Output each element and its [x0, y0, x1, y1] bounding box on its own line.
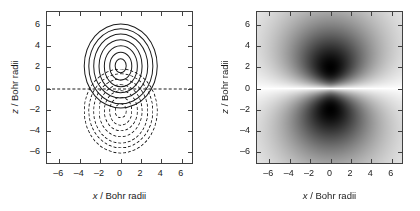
density-xticklabel: 0	[327, 169, 332, 178]
density-yticklabel: –6	[232, 147, 250, 156]
density-xaxis-title: x / Bohr radii	[256, 190, 403, 201]
density-plot-frame	[256, 11, 403, 164]
contour-ytick-right	[188, 152, 192, 153]
contour-xtick-top	[161, 12, 162, 16]
density-ytick-right	[398, 46, 402, 47]
contour-xticklabel: 6	[178, 169, 183, 178]
contour-ytick	[47, 46, 51, 47]
density-heatmap-canvas	[257, 12, 403, 164]
contour-xticklabel: 0	[117, 169, 122, 178]
contour-ytick	[47, 110, 51, 111]
contour-xaxis-unit: / Bohr radii	[100, 190, 146, 201]
contour-ytick-right	[188, 110, 192, 111]
density-xtick	[392, 159, 393, 163]
density-xtick-top	[351, 12, 352, 16]
density-xtick	[351, 159, 352, 163]
contour-yticklabel: –6	[22, 147, 40, 156]
density-xtick	[331, 159, 332, 163]
contour-xtick-top	[59, 12, 60, 16]
contour-ytick	[47, 152, 51, 153]
density-xtick-top	[371, 12, 372, 16]
density-xtick-top	[331, 12, 332, 16]
density-ytick-right	[398, 67, 402, 68]
density-ytick	[257, 46, 261, 47]
contour-xtick-top	[182, 12, 183, 16]
density-xtick-top	[392, 12, 393, 16]
density-yticklabel: –2	[232, 104, 250, 113]
panel-probability-density: x / Bohr radii z / Bohr radii –6–4–20246…	[210, 0, 420, 211]
contour-yticklabel: 0	[22, 83, 40, 92]
density-xticklabel: 2	[347, 169, 352, 178]
contour-xtick	[141, 159, 142, 163]
contour-yticklabel: 4	[22, 41, 40, 50]
contour-yticklabel: 2	[22, 62, 40, 71]
density-ytick-right	[398, 89, 402, 90]
contour-ytick-right	[188, 25, 192, 26]
orbital-figure: x / Bohr radii z / Bohr radii –6–4–20246…	[0, 0, 420, 211]
contour-xtick	[161, 159, 162, 163]
contour-xtick	[121, 159, 122, 163]
contour-ytick	[47, 131, 51, 132]
density-ytick-right	[398, 152, 402, 153]
density-xticklabel: –2	[304, 169, 314, 178]
contour-xtick	[59, 159, 60, 163]
contour-ytick-right	[188, 89, 192, 90]
contour-ytick	[47, 67, 51, 68]
contour-ytick-right	[188, 46, 192, 47]
contour-xticklabel: 2	[137, 169, 142, 178]
density-yticklabel: 6	[232, 19, 250, 28]
density-xtick-top	[290, 12, 291, 16]
contour-xtick-top	[80, 12, 81, 16]
contour-xticklabel: 4	[158, 169, 163, 178]
contour-xticklabel: –4	[74, 169, 84, 178]
contour-xtick	[182, 159, 183, 163]
panel-wavefunction-contour: x / Bohr radii z / Bohr radii –6–4–20246…	[0, 0, 210, 211]
contour-yaxis-title: z / Bohr radii	[9, 60, 20, 113]
density-xticklabel: –6	[263, 169, 273, 178]
density-xtick-top	[269, 12, 270, 16]
contour-ytick	[47, 89, 51, 90]
contour-xtick	[100, 159, 101, 163]
density-ytick	[257, 67, 261, 68]
density-ytick	[257, 131, 261, 132]
density-ytick	[257, 89, 261, 90]
contour-yticklabel: –2	[22, 104, 40, 113]
density-yaxis-unit: / Bohr radii	[219, 60, 230, 106]
contour-xtick-top	[141, 12, 142, 16]
density-xticklabel: –4	[284, 169, 294, 178]
density-yticklabel: 4	[232, 41, 250, 50]
density-ytick-right	[398, 131, 402, 132]
density-xtick-top	[310, 12, 311, 16]
contour-xaxis-title: x / Bohr radii	[46, 190, 193, 201]
density-yticklabel: 2	[232, 62, 250, 71]
density-ytick-right	[398, 25, 402, 26]
density-xticklabel: 4	[368, 169, 373, 178]
contour-xticklabel: –2	[94, 169, 104, 178]
density-xaxis-var: x	[303, 190, 308, 201]
density-yticklabel: –4	[232, 126, 250, 135]
contour-xtick-top	[121, 12, 122, 16]
density-xticklabel: 6	[388, 169, 393, 178]
density-ytick	[257, 25, 261, 26]
nodal-plane-line	[47, 88, 192, 89]
contour-xtick-top	[100, 12, 101, 16]
density-yaxis-var: z	[219, 109, 230, 114]
contour-yaxis-unit: / Bohr radii	[9, 60, 20, 106]
contour-ring	[114, 103, 127, 118]
contour-plot-frame	[46, 11, 193, 164]
contour-plot-area	[47, 12, 192, 163]
contour-ytick-right	[188, 131, 192, 132]
density-xtick	[371, 159, 372, 163]
density-yticklabel: 0	[232, 83, 250, 92]
contour-ytick	[47, 25, 51, 26]
contour-yticklabel: 6	[22, 19, 40, 28]
contour-xtick	[80, 159, 81, 163]
contour-yaxis-var: z	[9, 109, 20, 114]
contour-yticklabel: –4	[22, 126, 40, 135]
density-xtick	[269, 159, 270, 163]
density-ytick	[257, 110, 261, 111]
density-xtick	[310, 159, 311, 163]
contour-xticklabel: –6	[53, 169, 63, 178]
density-xtick	[290, 159, 291, 163]
density-ytick-right	[398, 110, 402, 111]
